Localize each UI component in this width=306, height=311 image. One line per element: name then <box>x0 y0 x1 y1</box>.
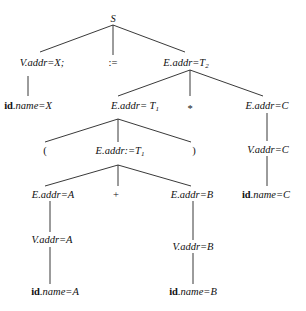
node-id-x: id.name=X <box>4 100 52 111</box>
node-e-a: E.addr=A <box>31 189 75 200</box>
edge-e1b-ea <box>45 165 118 186</box>
node-star: * <box>187 103 192 114</box>
node-v-c: V.addr=C <box>247 144 290 155</box>
edge-s-v <box>40 25 113 52</box>
node-lparen: ( <box>43 145 47 157</box>
node-id-a: id.name=A <box>31 286 79 297</box>
node-e-t1-inner: E.addr:=T1 <box>95 145 145 158</box>
edge-e1-rparen <box>118 119 191 142</box>
node-id-b: id.name=B <box>169 286 217 297</box>
node-rparen: ) <box>192 145 196 157</box>
node-id-c: id.name=C <box>242 189 291 200</box>
node-assign: := <box>109 57 118 68</box>
node-v-b: V.addr=B <box>172 241 214 252</box>
node-e-t1: E.addr= T1 <box>110 100 159 113</box>
edge-e-ec <box>190 70 263 96</box>
node-v-a: V.addr=A <box>31 234 73 245</box>
edge-e-e1 <box>118 70 190 96</box>
node-plus: + <box>113 189 119 200</box>
node-v-x: V.addr=X; <box>20 57 65 68</box>
edge-e1-lparen <box>45 119 118 142</box>
edge-s-e <box>113 25 185 52</box>
parse-tree: S V.addr=X; := E.addr=T2 id.name=X E.add… <box>0 0 306 311</box>
node-s: S <box>110 13 116 24</box>
edge-e1b-eb <box>118 165 191 186</box>
node-e-c: E.addr=C <box>245 100 290 111</box>
node-e-t2: E.addr=T2 <box>162 57 209 70</box>
node-e-b: E.addr=B <box>170 189 214 200</box>
